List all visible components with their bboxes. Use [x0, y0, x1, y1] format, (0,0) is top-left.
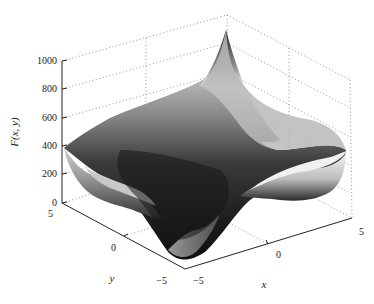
z-tick-600: 600	[42, 112, 57, 123]
z-tick-800: 800	[42, 83, 57, 94]
surface	[64, 30, 346, 260]
surface-plot: 1000 800 600 400 200 0 5 0 −5 −5 0 5 F(x…	[0, 0, 374, 304]
z-tick-labels: 1000 800 600 400 200 0	[37, 55, 57, 208]
y-axis-label: y	[109, 272, 115, 284]
y-tick-5: 5	[48, 208, 53, 219]
y-tick-minus5: −5	[156, 275, 167, 286]
x-tick-minus5: −5	[193, 275, 204, 286]
z-tick-1000: 1000	[37, 55, 57, 66]
x-tick-0: 0	[276, 249, 281, 260]
z-tick-200: 200	[42, 168, 57, 179]
y-tick-0: 0	[111, 242, 116, 253]
z-tick-400: 400	[42, 140, 57, 151]
x-axis-label: x	[261, 278, 267, 290]
z-tick-0: 0	[52, 197, 57, 208]
x-tick-5: 5	[359, 226, 364, 237]
z-axis-label: F(x, y)	[8, 117, 21, 148]
